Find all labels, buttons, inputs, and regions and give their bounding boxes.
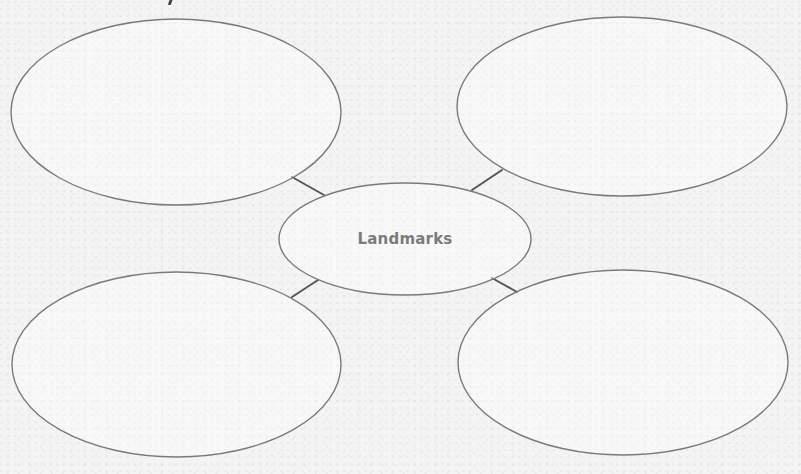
bubble-top-right[interactable] xyxy=(457,17,787,196)
bubble-top-left[interactable] xyxy=(11,19,341,205)
bubble-bottom-right[interactable] xyxy=(458,270,788,455)
center-topic-label: Landmarks xyxy=(279,183,531,295)
bubble-bottom-left[interactable] xyxy=(12,272,341,457)
